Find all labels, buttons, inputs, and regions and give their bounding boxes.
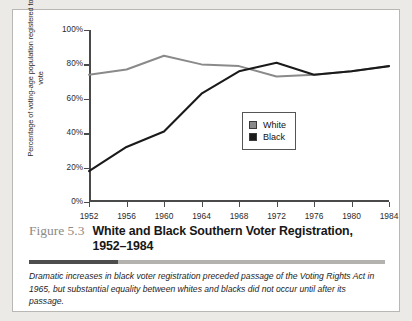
caption-divider-bar [29,260,385,264]
series-line-white [89,56,389,77]
x-tick [239,202,240,207]
x-tick [89,202,90,207]
legend-label-black: Black [263,132,285,142]
legend-swatch-black [249,133,257,141]
figure-title-line: Figure 5.3 White and Black Southern Vote… [29,223,383,254]
legend-label-white: White [263,120,286,130]
legend-item-black: Black [249,132,286,142]
chart-area: Percentage of voting-age population regi… [13,10,399,218]
figure-container: Percentage of voting-age population regi… [12,9,400,312]
y-tick-label: 20% [43,163,83,172]
legend-item-white: White [249,120,286,130]
figure-number: Figure 5.3 [29,223,85,239]
figure-page: Percentage of voting-age population regi… [0,0,412,321]
y-tick-label: 40% [43,128,83,137]
legend-swatch-white [249,121,257,129]
x-tick [277,202,278,207]
series-line-black [89,63,389,171]
figure-caption-text: Dramatic increases in black voter regist… [29,270,381,308]
x-tick [389,202,390,207]
x-tick [352,202,353,207]
series-lines [89,30,389,202]
x-tick [127,202,128,207]
x-tick [164,202,165,207]
y-tick-label: 100% [43,25,83,34]
x-tick [202,202,203,207]
chart-legend: White Black [242,112,296,150]
y-tick-label: 0% [43,197,83,206]
y-tick-label: 80% [43,59,83,68]
x-tick [314,202,315,207]
y-tick-label: 60% [43,94,83,103]
figure-title: White and Black Southern Voter Registrat… [93,224,384,254]
plot-region: 0%20%40%60%80%100% 195219561960196419681… [89,30,389,202]
figure-caption-block: Figure 5.3 White and Black Southern Vote… [13,219,399,308]
